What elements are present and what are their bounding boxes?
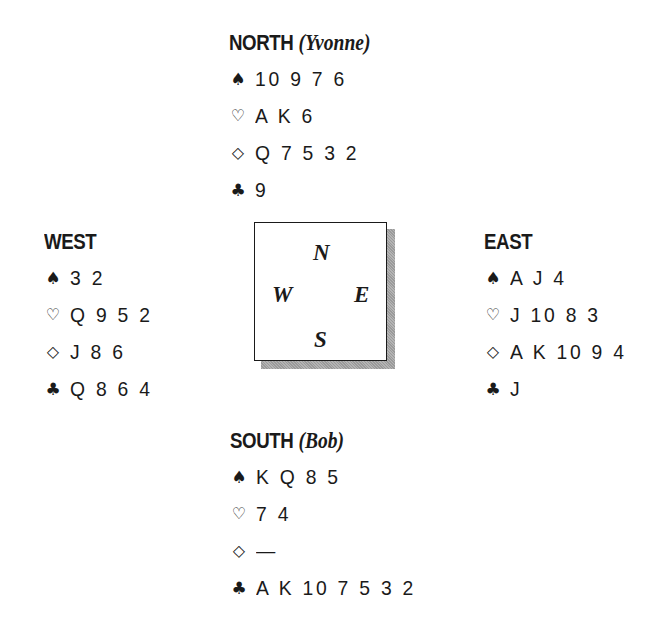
south-clubs-row: ♣ A K 10 7 5 3 2 bbox=[230, 569, 430, 606]
club-icon: ♣ bbox=[44, 379, 62, 399]
diamond-icon: ◇ bbox=[230, 541, 248, 560]
card-list: A J 4 bbox=[510, 266, 567, 290]
card-list: 7 4 bbox=[256, 502, 291, 526]
club-icon: ♣ bbox=[484, 379, 502, 399]
seat-label: EAST bbox=[484, 229, 532, 254]
card-list: Q 9 5 2 bbox=[70, 303, 153, 327]
east-clubs-row: ♣ J bbox=[484, 370, 637, 407]
spade-icon: ♠ bbox=[484, 268, 502, 288]
card-list: A K 10 9 4 bbox=[510, 340, 627, 364]
east-hand-title: EAST bbox=[484, 229, 614, 255]
spade-icon: ♠ bbox=[229, 69, 247, 89]
south-diamonds-row: ◇ — bbox=[230, 532, 430, 569]
compass-north: N bbox=[313, 241, 330, 264]
north-clubs-row: ♣ 9 bbox=[229, 171, 395, 208]
seat-label: WEST bbox=[44, 229, 96, 254]
compass-south: S bbox=[314, 328, 327, 351]
west-hand-title: WEST bbox=[44, 229, 143, 255]
heart-icon: ♡ bbox=[484, 305, 502, 324]
compass-east: E bbox=[354, 283, 369, 306]
north-hearts-row: ♡ A K 6 bbox=[229, 97, 395, 134]
card-list: 10 9 7 6 bbox=[255, 67, 347, 91]
south-hearts-row: ♡ 7 4 bbox=[230, 495, 430, 532]
west-clubs-row: ♣ Q 8 6 4 bbox=[44, 370, 160, 407]
card-list: A K 6 bbox=[255, 104, 315, 128]
card-list: A K 10 7 5 3 2 bbox=[256, 576, 416, 600]
card-list: J 8 6 bbox=[70, 340, 126, 364]
spade-icon: ♠ bbox=[230, 467, 248, 487]
north-hand-title: NORTH(Yvonne) bbox=[229, 30, 371, 56]
east-hand: EAST ♠ A J 4 ♡ J 10 8 3 ◇ A K 10 9 4 ♣ J bbox=[484, 229, 637, 407]
north-hand: NORTH(Yvonne) ♠ 10 9 7 6 ♡ A K 6 ◇ Q 7 5… bbox=[229, 30, 395, 208]
west-hand: WEST ♠ 3 2 ♡ Q 9 5 2 ◇ J 8 6 ♣ Q 8 6 4 bbox=[44, 229, 160, 407]
player-name: (Yvonne) bbox=[298, 30, 370, 55]
south-hand-title: SOUTH(Bob) bbox=[230, 428, 400, 454]
north-spades-row: ♠ 10 9 7 6 bbox=[229, 60, 395, 97]
west-hearts-row: ♡ Q 9 5 2 bbox=[44, 296, 160, 333]
card-list: J 10 8 3 bbox=[510, 303, 601, 327]
east-hearts-row: ♡ J 10 8 3 bbox=[484, 296, 637, 333]
south-hand: SOUTH(Bob) ♠ K Q 8 5 ♡ 7 4 ◇ — ♣ A K 10 … bbox=[230, 428, 430, 606]
south-spades-row: ♠ K Q 8 5 bbox=[230, 458, 430, 495]
spade-icon: ♠ bbox=[44, 268, 62, 288]
west-spades-row: ♠ 3 2 bbox=[44, 259, 160, 296]
heart-icon: ♡ bbox=[229, 106, 247, 125]
diamond-icon: ◇ bbox=[44, 342, 62, 361]
card-list: Q 8 6 4 bbox=[70, 377, 153, 401]
club-icon: ♣ bbox=[229, 180, 247, 200]
card-list: — bbox=[256, 539, 278, 563]
player-name: (Bob) bbox=[298, 428, 344, 453]
card-list: J bbox=[510, 377, 522, 401]
club-icon: ♣ bbox=[230, 578, 248, 598]
card-list: Q 7 5 3 2 bbox=[255, 141, 359, 165]
card-list: 3 2 bbox=[70, 266, 105, 290]
north-diamonds-row: ◇ Q 7 5 3 2 bbox=[229, 134, 395, 171]
diamond-icon: ◇ bbox=[484, 342, 502, 361]
heart-icon: ♡ bbox=[44, 305, 62, 324]
card-list: K Q 8 5 bbox=[256, 465, 341, 489]
card-list: 9 bbox=[255, 178, 269, 202]
compass-west: W bbox=[272, 283, 292, 306]
diamond-icon: ◇ bbox=[229, 143, 247, 162]
heart-icon: ♡ bbox=[230, 504, 248, 523]
seat-label: SOUTH bbox=[230, 428, 293, 453]
compass-box: N W E S bbox=[254, 222, 387, 361]
west-diamonds-row: ◇ J 8 6 bbox=[44, 333, 160, 370]
seat-label: NORTH bbox=[229, 30, 293, 55]
east-spades-row: ♠ A J 4 bbox=[484, 259, 637, 296]
compass-diagram: N W E S bbox=[254, 222, 388, 362]
east-diamonds-row: ◇ A K 10 9 4 bbox=[484, 333, 637, 370]
